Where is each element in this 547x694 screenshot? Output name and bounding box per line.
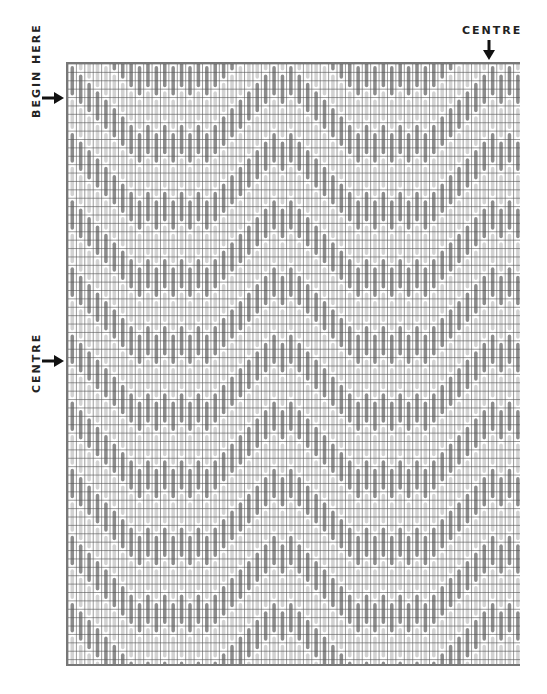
centre-top-arrow-icon bbox=[482, 40, 496, 62]
begin-here-arrow-icon bbox=[42, 91, 66, 105]
centre-top-label: CENTRE bbox=[462, 24, 522, 37]
centre-left-arrow-icon bbox=[42, 354, 66, 368]
bargello-chart bbox=[66, 62, 520, 666]
stitch-grid bbox=[68, 64, 520, 666]
